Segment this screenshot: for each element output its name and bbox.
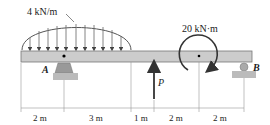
dim-4: 2 m bbox=[169, 113, 183, 123]
load-label: 4 kN/m bbox=[27, 6, 58, 17]
support-b-label: B bbox=[252, 62, 260, 73]
dim-3: 1 m bbox=[134, 113, 148, 123]
beam-diagram: 4 kN/m A P 20 kN·m B 2 m 3 m 1 m 2 m 2 m bbox=[0, 0, 270, 125]
moment-label: 20 kN·m bbox=[182, 23, 218, 34]
dim-2: 3 m bbox=[89, 113, 103, 123]
force-p-label: P bbox=[157, 77, 164, 88]
support-a-label: A bbox=[41, 64, 49, 75]
distributed-load bbox=[22, 14, 131, 50]
dim-1: 2 m bbox=[33, 113, 47, 123]
dim-5: 2 m bbox=[213, 113, 227, 123]
